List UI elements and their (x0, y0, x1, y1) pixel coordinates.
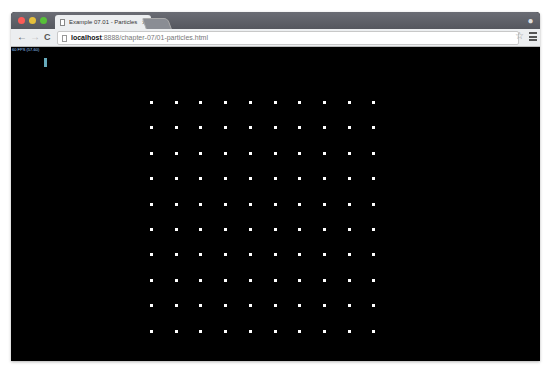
particle (274, 304, 277, 307)
particle (199, 304, 202, 307)
particle (249, 304, 252, 307)
reload-icon[interactable]: C (44, 31, 51, 43)
particle (199, 279, 202, 282)
bookmark-star-icon[interactable]: ☆ (515, 30, 524, 41)
particle (224, 152, 227, 155)
particle (348, 101, 351, 104)
particle (224, 330, 227, 333)
particle (249, 177, 252, 180)
particle (175, 101, 178, 104)
particle (323, 203, 326, 206)
particle (175, 228, 178, 231)
particle (224, 177, 227, 180)
particle (348, 203, 351, 206)
particle (199, 126, 202, 129)
particle (199, 101, 202, 104)
particle (372, 253, 375, 256)
menu-icon[interactable] (529, 32, 537, 43)
fps-graph-bar (44, 58, 47, 67)
particle (249, 203, 252, 206)
particle (249, 279, 252, 282)
particle (274, 279, 277, 282)
particle (249, 152, 252, 155)
particle (199, 228, 202, 231)
particle (249, 101, 252, 104)
particle (348, 279, 351, 282)
particle (372, 101, 375, 104)
particle (298, 177, 301, 180)
particle (298, 304, 301, 307)
forward-icon[interactable]: → (30, 31, 40, 43)
particle (348, 330, 351, 333)
particle (348, 228, 351, 231)
webgl-canvas[interactable]: 60 FPS (57-60) (11, 47, 540, 361)
particle (372, 279, 375, 282)
particle (199, 152, 202, 155)
particle (372, 330, 375, 333)
particle (274, 253, 277, 256)
fps-readout: 60 FPS (57-60) (11, 47, 47, 52)
particle (348, 126, 351, 129)
particle (175, 177, 178, 180)
particle (372, 304, 375, 307)
page-icon (62, 35, 67, 42)
particle (372, 152, 375, 155)
tab-title: Example 07.01 - Particles (69, 19, 142, 25)
particle (274, 330, 277, 333)
browser-window: Example 07.01 - Particles × ● ← → C loca… (11, 12, 540, 361)
zoom-window-button[interactable] (40, 17, 47, 24)
particle (348, 177, 351, 180)
particle (175, 126, 178, 129)
particle (298, 101, 301, 104)
particle (298, 126, 301, 129)
particle (150, 304, 153, 307)
particle (274, 203, 277, 206)
particle (150, 253, 153, 256)
particle (175, 330, 178, 333)
particle (199, 330, 202, 333)
particle (323, 152, 326, 155)
particle (175, 253, 178, 256)
title-bar: Example 07.01 - Particles × ● (11, 12, 540, 29)
minimize-window-button[interactable] (29, 17, 36, 24)
page-icon (60, 19, 65, 26)
particle (249, 228, 252, 231)
particle (298, 330, 301, 333)
particle (274, 101, 277, 104)
particle (249, 126, 252, 129)
tab-particles[interactable]: Example 07.01 - Particles × (55, 15, 151, 29)
particle (150, 101, 153, 104)
particle (323, 304, 326, 307)
particle (249, 253, 252, 256)
stats-panel[interactable]: 60 FPS (57-60) (11, 47, 47, 67)
particle (150, 279, 153, 282)
profile-icon[interactable]: ● (525, 15, 536, 27)
particle (224, 101, 227, 104)
particle (150, 203, 153, 206)
toolbar: ← → C localhost:8888/chapter-07/01-parti… (11, 29, 540, 47)
particle (274, 152, 277, 155)
back-icon[interactable]: ← (17, 31, 27, 43)
particle (323, 126, 326, 129)
particle (372, 177, 375, 180)
particle (348, 253, 351, 256)
url-path: :8888/chapter-07/01-particles.html (102, 34, 208, 41)
particle (323, 330, 326, 333)
particle (274, 177, 277, 180)
particle (150, 330, 153, 333)
particle (199, 203, 202, 206)
particle (298, 253, 301, 256)
particle (274, 126, 277, 129)
particle (224, 126, 227, 129)
particle (348, 304, 351, 307)
particle (224, 304, 227, 307)
address-bar[interactable]: localhost:8888/chapter-07/01-particles.h… (57, 31, 519, 45)
particle (175, 152, 178, 155)
particle (372, 203, 375, 206)
particle (323, 228, 326, 231)
particle (249, 330, 252, 333)
close-window-button[interactable] (18, 17, 25, 24)
particle (224, 228, 227, 231)
particle (224, 203, 227, 206)
url-host: localhost (71, 34, 102, 41)
